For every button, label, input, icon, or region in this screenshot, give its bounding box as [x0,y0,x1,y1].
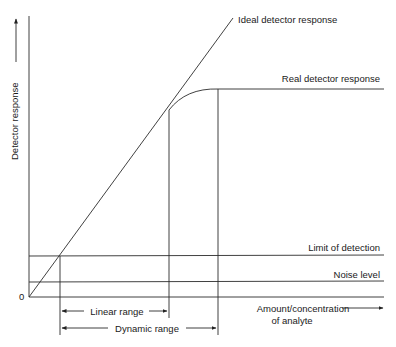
y-axis-title: Detector response [9,82,20,160]
noise-level-label: Noise level [334,269,380,280]
real-response-curve [169,89,384,110]
dynamic-range-label: Dynamic range [115,323,179,334]
ideal-response-label: Ideal detector response [238,14,337,25]
limit-of-detection-label: Limit of detection [308,242,380,253]
x-axis-title-line2: of analyte [271,315,312,326]
noise-level-line [29,281,384,282]
real-response-label: Real detector response [282,73,380,84]
x-axis-title-line1: Amount/concentration [257,303,349,314]
svg-text:Detector response: Detector response [9,82,20,160]
linear-range-label: Linear range [90,306,143,317]
detector-response-diagram: 0 Detector response Limit of detection N… [0,0,396,347]
limit-of-detection-line [29,255,384,256]
origin-label: 0 [19,291,24,302]
